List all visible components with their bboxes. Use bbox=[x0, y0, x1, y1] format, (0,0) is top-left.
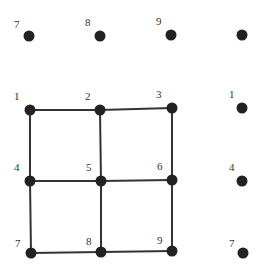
node-r7 bbox=[238, 248, 249, 259]
node-n9 bbox=[167, 246, 178, 257]
node-t7 bbox=[24, 31, 35, 42]
edge-n7-n8 bbox=[31, 252, 101, 253]
node-label-n2: 2 bbox=[85, 90, 91, 102]
edge-n4-n7 bbox=[30, 181, 31, 253]
node-n1 bbox=[25, 105, 36, 116]
node-n7 bbox=[26, 248, 37, 259]
node-n6 bbox=[167, 175, 178, 186]
node-r4 bbox=[237, 176, 248, 187]
nodes-layer bbox=[24, 30, 249, 259]
edge-n2-n3 bbox=[100, 108, 172, 110]
edge-n8-n9 bbox=[101, 251, 172, 252]
node-t9 bbox=[166, 30, 177, 41]
node-label-n8: 8 bbox=[86, 235, 92, 247]
node-n2 bbox=[95, 105, 106, 116]
node-n3 bbox=[167, 103, 178, 114]
node-label-t7: 7 bbox=[14, 18, 20, 30]
node-n4 bbox=[25, 176, 36, 187]
node-r1 bbox=[237, 103, 248, 114]
node-label-t9: 9 bbox=[156, 15, 162, 27]
caption-cutoff bbox=[80, 268, 250, 273]
node-label-n6: 6 bbox=[157, 160, 163, 172]
edge-n2-n5 bbox=[100, 110, 101, 181]
node-label-r1: 1 bbox=[229, 88, 235, 100]
node-label-n1: 1 bbox=[14, 90, 20, 102]
node-label-n9: 9 bbox=[157, 234, 163, 246]
node-tr bbox=[237, 30, 248, 41]
node-label-n4: 4 bbox=[14, 161, 20, 173]
node-label-r7: 7 bbox=[229, 237, 235, 249]
labels-layer: 789123145647897 bbox=[14, 15, 235, 249]
node-label-r4: 4 bbox=[229, 161, 235, 173]
node-n5 bbox=[96, 176, 107, 187]
node-label-n7: 7 bbox=[15, 237, 21, 249]
node-t8 bbox=[95, 31, 106, 42]
edge-n5-n6 bbox=[101, 180, 172, 181]
node-label-n3: 3 bbox=[156, 88, 162, 100]
node-n8 bbox=[96, 247, 107, 258]
node-label-n5: 5 bbox=[86, 161, 92, 173]
node-label-t8: 8 bbox=[85, 16, 91, 28]
grid-graph-diagram: 789123145647897 bbox=[0, 0, 265, 273]
